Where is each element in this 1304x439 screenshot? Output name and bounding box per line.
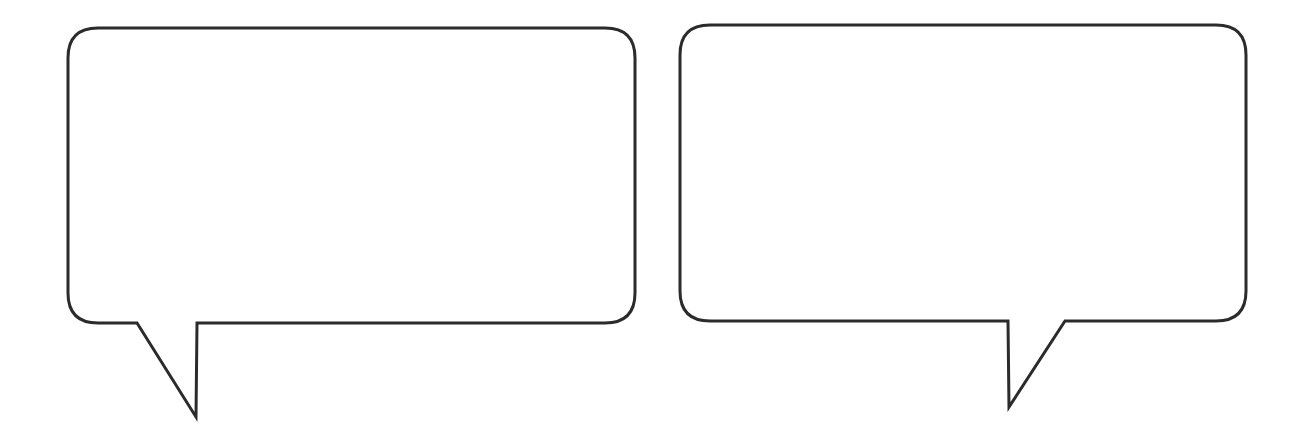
speech-bubble-right-text [682, 27, 1245, 320]
speech-bubble-left-text [70, 30, 634, 322]
